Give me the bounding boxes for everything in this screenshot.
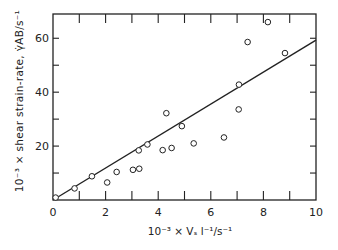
data-point-circle	[191, 141, 197, 147]
data-point-circle	[164, 110, 170, 116]
scatter-plot: 0246810204060	[0, 0, 338, 250]
plot-frame	[53, 14, 316, 200]
data-point-circle	[130, 167, 136, 173]
data-point-circle	[265, 19, 271, 25]
x-tick-label: 10	[309, 206, 323, 219]
data-point-circle	[160, 147, 166, 153]
data-points	[53, 19, 288, 200]
data-point-circle	[282, 50, 288, 56]
x-tick-label: 0	[50, 206, 57, 219]
x-tick-label: 6	[207, 206, 214, 219]
x-tick-label: 8	[260, 206, 267, 219]
data-point-circle	[89, 173, 95, 179]
data-point-circle	[169, 145, 175, 151]
data-point-circle	[136, 148, 142, 154]
data-point-circle	[145, 142, 151, 148]
data-point-circle	[114, 169, 120, 175]
y-tick-label: 20	[35, 140, 49, 153]
y-tick-label: 60	[35, 32, 49, 45]
data-point-circle	[236, 107, 242, 113]
y-tick-label: 40	[35, 86, 49, 99]
x-tick-label: 2	[102, 206, 109, 219]
data-point-circle	[236, 82, 242, 88]
axis-ticks: 0246810204060	[35, 14, 323, 219]
data-point-circle	[53, 195, 59, 201]
data-point-circle	[221, 135, 227, 141]
axes-box	[53, 14, 316, 200]
x-tick-label: 4	[155, 206, 162, 219]
data-point-circle	[136, 166, 142, 172]
data-point-circle	[245, 39, 251, 45]
data-point-circle	[179, 123, 185, 129]
x-axis-label: 10⁻³ × Vₛ l⁻¹/s⁻¹	[100, 225, 280, 237]
data-point-circle	[72, 186, 78, 192]
y-axis-label: 10⁻³ × shear strain-rate, γ̇AB/s⁻¹	[13, 1, 27, 201]
data-point-circle	[104, 180, 110, 186]
